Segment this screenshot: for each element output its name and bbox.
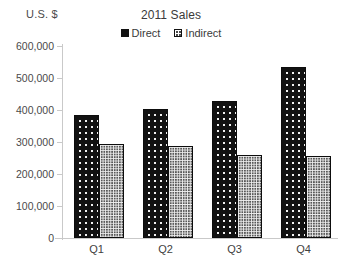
bar-group-q1 [74, 46, 124, 238]
bar-group-q4 [281, 46, 331, 238]
y-axis-tick-mark [57, 238, 62, 239]
legend-item-direct[interactable]: Direct [121, 27, 161, 39]
bar-direct-q3[interactable] [212, 101, 237, 238]
x-axis-label-q1: Q1 [62, 243, 131, 255]
bar-group-q2 [143, 46, 193, 238]
bar-direct-q2[interactable] [143, 109, 168, 238]
legend-item-indirect[interactable]: Indirect [174, 27, 221, 39]
direct-swatch-icon [121, 29, 129, 37]
x-axis-line [55, 238, 338, 239]
bar-indirect-q2[interactable] [168, 146, 193, 238]
y-axis-tick-label: 0 [0, 232, 54, 244]
y-axis-tick-labels: 0100,000200,000300,000400,000500,000600,… [0, 0, 54, 265]
y-axis-tick-label: 400,000 [0, 104, 54, 116]
y-axis-tick-label: 100,000 [0, 200, 54, 212]
y-axis-tick-label: 600,000 [0, 40, 54, 52]
y-axis-tick-label: 200,000 [0, 168, 54, 180]
bar-group-q3 [212, 46, 262, 238]
bar-indirect-q1[interactable] [99, 144, 124, 238]
indirect-swatch-icon [174, 29, 182, 37]
bar-chart: U.S. $ 2011 Sales Direct Indirect 0100,0… [0, 0, 342, 265]
x-axis-label-q2: Q2 [131, 243, 200, 255]
bar-direct-q4[interactable] [281, 67, 306, 238]
legend-label-indirect: Indirect [185, 27, 221, 39]
x-axis-label-q4: Q4 [269, 243, 338, 255]
bar-indirect-q3[interactable] [237, 155, 262, 238]
x-axis-label-q3: Q3 [200, 243, 269, 255]
bar-direct-q1[interactable] [74, 115, 99, 238]
bars-layer [62, 46, 338, 238]
bar-indirect-q4[interactable] [306, 156, 331, 238]
legend-label-direct: Direct [132, 27, 161, 39]
y-axis-tick-label: 500,000 [0, 72, 54, 84]
y-axis-tick-label: 300,000 [0, 136, 54, 148]
x-axis-category-labels: Q1Q2Q3Q4 [62, 243, 338, 261]
